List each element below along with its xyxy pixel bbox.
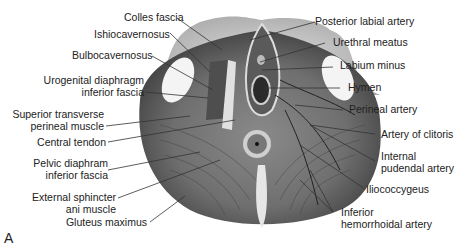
label-pelvic-fascia: inferior fascia: [4, 170, 108, 182]
label-pelvic-diaphram: Pelvic diaphram: [4, 158, 108, 170]
label-urogenital-fascia: inferior fascia: [42, 87, 144, 99]
label-iliococcygeus: Iliococcygeus: [366, 184, 429, 196]
label-perineal-artery: Perineal artery: [349, 104, 417, 116]
label-colles-fascia: Colles fascia: [124, 12, 184, 24]
label-bulbocavernosus: Bulbocavernosus: [72, 50, 153, 62]
label-superior-transverse: Superior transverse: [4, 109, 104, 121]
label-ischiocavernosus: Ishiocavernosus: [94, 29, 170, 41]
label-pudendal-artery: pudendal artery: [381, 163, 454, 175]
label-gluteus-maximus: Gluteus maximus: [4, 217, 147, 229]
label-urogenital-diaphragm: Urogenital diaphragm: [42, 75, 144, 87]
label-hymen: Hymen: [348, 82, 381, 94]
label-posterior-labial-artery: Posterior labial artery: [315, 16, 414, 28]
label-urethral-meatus: Urethral meatus: [333, 37, 408, 49]
label-central-tendon: Central tendon: [4, 137, 106, 149]
label-internal: Internal: [381, 151, 416, 163]
label-external-sphincter: External sphincter: [4, 192, 116, 204]
label-ani-muscle: ani muscle: [4, 204, 116, 216]
label-perineal-muscle: perineal muscle: [4, 121, 104, 133]
label-inferior: Inferior: [341, 207, 374, 219]
label-artery-of-clitoris: Artery of clitoris: [381, 129, 453, 141]
label-hemorrhoidal-artery: hemorrhoidal artery: [341, 219, 432, 231]
panel-letter: A: [4, 230, 13, 246]
label-labium-minus: Labium minus: [340, 60, 405, 72]
